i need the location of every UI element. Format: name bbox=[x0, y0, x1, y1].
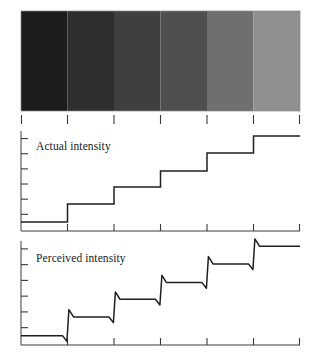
perceived-intensity-label: Perceived intensity bbox=[36, 252, 126, 265]
gray-band-5 bbox=[207, 11, 254, 111]
mach-bands-figure: Actual intensity Perceived intensity bbox=[0, 0, 318, 359]
grayscale-step-wedge bbox=[21, 11, 300, 124]
gray-band-4 bbox=[161, 11, 208, 111]
gray-band-2 bbox=[68, 11, 115, 111]
gray-band-1 bbox=[21, 11, 68, 111]
gray-band-6 bbox=[254, 11, 301, 111]
actual-intensity-label: Actual intensity bbox=[36, 140, 111, 153]
gray-band-3 bbox=[114, 11, 161, 111]
